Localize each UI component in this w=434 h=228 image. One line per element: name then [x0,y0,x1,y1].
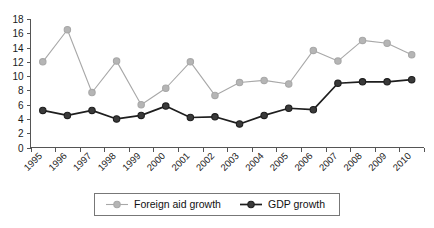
line-chart: 024681012141618 199519961997199819992000… [0,0,434,228]
series-1 [40,27,415,108]
x-axis-tick-labels: 1995199619971998199920002001200220032004… [21,150,413,173]
data-point [286,105,292,111]
x-tick-label-group: 1997 [71,150,94,173]
data-point [89,107,95,113]
x-tick-label: 1997 [71,150,94,173]
data-point [236,79,242,85]
data-point [138,101,144,107]
data-point [286,81,292,87]
data-point [310,106,316,112]
data-point [138,112,144,118]
legend-marker-swatch [248,201,254,207]
data-point [89,89,95,95]
data-point [64,112,70,118]
data-point [163,103,169,109]
x-tick-label-group: 2008 [341,150,364,173]
data-point [409,76,415,82]
x-tick-label-group: 2010 [390,150,413,173]
x-tick-label-group: 2006 [292,150,315,173]
data-point [113,58,119,64]
x-tick-label: 2004 [243,150,266,173]
data-point [113,116,119,122]
data-point [335,58,341,64]
x-axis-ticks [32,148,425,152]
x-tick-label: 2010 [390,150,413,173]
x-tick-label-group: 1996 [46,150,69,173]
data-series-layer [40,27,415,128]
y-tick-label: 2 [18,128,24,139]
data-point [409,51,415,57]
x-tick-label-group: 1998 [95,150,118,173]
data-point [310,47,316,53]
legend-label: Foreign aid growth [134,198,221,210]
series-line [43,30,412,105]
x-tick-label-group: 2002 [194,150,217,173]
data-point [187,59,193,65]
y-tick-label: 18 [12,14,24,25]
y-tick-label: 0 [18,143,24,154]
y-tick-label: 16 [12,28,24,39]
y-tick-label: 14 [12,43,24,54]
data-point [212,92,218,98]
x-tick-label: 2001 [169,150,192,173]
x-tick-label-group: 2007 [317,150,340,173]
x-tick-label: 1995 [21,150,44,173]
x-tick-label-group: 2001 [169,150,192,173]
x-tick-label: 2000 [144,150,167,173]
y-axis-ticks [27,20,31,149]
x-tick-label: 1996 [46,150,69,173]
x-tick-label: 2005 [267,150,290,173]
y-tick-label: 6 [18,100,24,111]
data-point [163,85,169,91]
chart-legend: Foreign aid growthGDP growth [95,194,340,216]
series-2 [40,76,415,127]
y-axis-tick-labels: 024681012141618 [12,14,24,154]
y-tick-label: 8 [18,85,24,96]
x-tick-label-group: 1999 [120,150,143,173]
x-tick-label: 1998 [95,150,118,173]
y-tick-label: 10 [12,71,24,82]
series-line [43,80,412,124]
data-point [236,121,242,127]
data-point [384,40,390,46]
data-point [384,79,390,85]
y-tick-label: 4 [18,114,24,125]
data-point [40,59,46,65]
x-tick-label-group: 2009 [366,150,389,173]
x-tick-label-group: 2003 [218,150,241,173]
x-tick-label: 2002 [194,150,217,173]
data-point [40,107,46,113]
x-tick-label: 2003 [218,150,241,173]
data-point [359,79,365,85]
data-point [261,112,267,118]
data-point [64,27,70,33]
legend-label: GDP growth [268,198,325,210]
x-tick-label: 2007 [317,150,340,173]
data-point [359,37,365,43]
x-tick-label: 2009 [366,150,389,173]
x-tick-label: 2008 [341,150,364,173]
x-tick-label-group: 2004 [243,150,266,173]
x-tick-label-group: 2000 [144,150,167,173]
data-point [335,80,341,86]
x-tick-label-group: 2005 [267,150,290,173]
data-point [212,114,218,120]
legend-marker-swatch [114,201,120,207]
data-point [187,114,193,120]
y-tick-label: 12 [12,57,24,68]
x-tick-label: 2006 [292,150,315,173]
x-tick-label: 1999 [120,150,143,173]
chart-canvas: 024681012141618 199519961997199819992000… [0,0,434,228]
data-point [261,77,267,83]
x-tick-label-group: 1995 [21,150,44,173]
